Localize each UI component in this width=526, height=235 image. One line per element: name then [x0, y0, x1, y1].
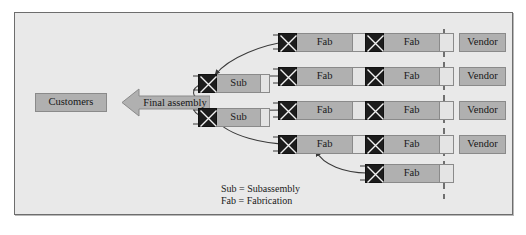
queue-buffer	[440, 67, 454, 86]
fab-label: Fab	[317, 37, 333, 48]
fab-unit-r3-s2[interactable]: Fab	[365, 101, 454, 120]
queue-buffer	[440, 33, 454, 52]
queue-buffer	[440, 164, 454, 183]
machine-icon	[365, 101, 384, 120]
subassembly-body: Sub	[217, 74, 261, 93]
fab-body: Fab	[384, 135, 440, 154]
customers-box[interactable]: Customers	[35, 93, 107, 112]
vendor-box-4[interactable]: Vendor	[459, 135, 506, 154]
machine-icon	[278, 33, 297, 52]
fab-body: Fab	[297, 67, 353, 86]
fab-label: Fab	[404, 105, 420, 116]
fab-label: Fab	[317, 71, 333, 82]
fab-unit-r4-s1[interactable]: Fab	[278, 135, 367, 154]
fab-unit-r1-s1[interactable]: Fab	[278, 33, 367, 52]
queue-buffer	[261, 108, 270, 127]
subassembly-body: Sub	[217, 108, 261, 127]
vendor-label: Vendor	[467, 37, 497, 48]
fab-label: Fab	[404, 71, 420, 82]
fab-unit-r2-s2[interactable]: Fab	[365, 67, 454, 86]
legend-line-fab: Fab = Fabrication	[221, 195, 300, 207]
fab-unit-r1-s2[interactable]: Fab	[365, 33, 454, 52]
vendor-box-2[interactable]: Vendor	[459, 67, 506, 86]
vendor-box-1[interactable]: Vendor	[459, 33, 506, 52]
fab-unit-r2-s1[interactable]: Fab	[278, 67, 367, 86]
fab-body: Fab	[384, 101, 440, 120]
legend-line-sub: Sub = Subassembly	[221, 183, 300, 195]
queue-buffer	[261, 74, 270, 93]
machine-icon	[278, 101, 297, 120]
fab-body: Fab	[384, 164, 440, 183]
diagram-canvas: Customers Final assembly Sub	[0, 0, 526, 235]
final-assembly-node[interactable]: Final assembly	[122, 87, 210, 118]
machine-icon	[198, 74, 217, 93]
machine-icon	[365, 67, 384, 86]
machine-icon	[278, 135, 297, 154]
fab-body: Fab	[297, 33, 353, 52]
fab-body: Fab	[297, 135, 353, 154]
vendor-label: Vendor	[467, 71, 497, 82]
queue-buffer	[440, 101, 454, 120]
subassembly-label-2: Sub	[230, 112, 246, 123]
fab-body: Fab	[297, 101, 353, 120]
fab-unit-r3-s1[interactable]: Fab	[278, 101, 367, 120]
fab-label: Fab	[404, 37, 420, 48]
machine-icon	[278, 67, 297, 86]
queue-buffer	[440, 135, 454, 154]
customers-label: Customers	[49, 97, 94, 108]
machine-icon	[198, 108, 217, 127]
fab-label: Fab	[404, 168, 420, 179]
subassembly-unit-1[interactable]: Sub	[198, 74, 270, 93]
fab-body: Fab	[384, 33, 440, 52]
fab-body: Fab	[384, 67, 440, 86]
machine-icon	[365, 33, 384, 52]
fab-unit-r4-s2[interactable]: Fab	[365, 135, 454, 154]
fab-label: Fab	[404, 139, 420, 150]
fab-unit-r5-s1[interactable]: Fab	[365, 164, 454, 183]
subassembly-unit-2[interactable]: Sub	[198, 108, 270, 127]
fab-label: Fab	[317, 139, 333, 150]
machine-icon	[365, 135, 384, 154]
vendor-label: Vendor	[467, 105, 497, 116]
legend: Sub = Subassembly Fab = Fabrication	[221, 183, 300, 207]
diagram-panel: Customers Final assembly Sub	[14, 12, 513, 215]
vendor-label: Vendor	[467, 139, 497, 150]
vendor-box-3[interactable]: Vendor	[459, 101, 506, 120]
subassembly-label-1: Sub	[230, 78, 246, 89]
machine-icon	[365, 164, 384, 183]
fab-label: Fab	[317, 105, 333, 116]
